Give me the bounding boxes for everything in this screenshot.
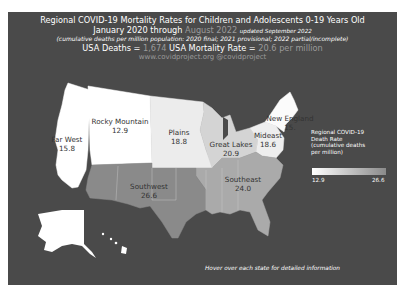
region-name: Great Lakes — [210, 140, 253, 149]
legend-title-line: Death Rate — [311, 136, 365, 143]
region-value: 18.8 — [168, 137, 189, 146]
region-name: Southeast — [225, 175, 261, 184]
region-value: 24.0 — [225, 184, 261, 193]
region-value: 15.8 — [52, 144, 83, 153]
region-southwest[interactable] — [86, 163, 206, 238]
label-mideast: Mideast 18.6 — [254, 131, 282, 149]
label-southwest: Southwest 26.6 — [130, 182, 168, 200]
legend-title-line: Regional COVID-19 — [311, 129, 365, 136]
legend-min: 12.9 — [312, 177, 324, 183]
region-value: 18.6 — [254, 140, 282, 149]
region-value: 26.6 — [130, 191, 168, 200]
label-plains: Plains 18.8 — [168, 128, 189, 146]
region-alaska[interactable] — [38, 210, 96, 258]
legend-colorbar — [312, 168, 386, 175]
label-great-lakes: Great Lakes 20.9 — [210, 140, 253, 158]
legend-title: Regional COVID-19 Death Rate (cumulative… — [311, 129, 365, 155]
region-value: 12.9 — [92, 126, 149, 135]
region-value: 20.9 — [210, 149, 253, 158]
legend-max: 26.6 — [372, 177, 384, 183]
region-name: New England — [266, 114, 313, 123]
region-name: Far West — [52, 135, 83, 144]
legend-title-line: (cumulative deaths — [311, 142, 365, 149]
region-name: Southwest — [130, 182, 168, 191]
label-southeast: Southeast 24.0 — [225, 175, 261, 193]
region-name: Plains — [168, 128, 189, 137]
label-far-west: Far West 15.8 — [52, 135, 83, 153]
label-new-england: New England 15. — [266, 114, 313, 132]
region-name: Mideast — [254, 131, 282, 140]
region-hawaii[interactable] — [102, 233, 127, 254]
label-rocky-mountain: Rocky Mountain 12.9 — [92, 117, 149, 135]
region-value: 15. — [266, 123, 313, 132]
legend-title-line: per million) — [311, 149, 365, 156]
region-name: Rocky Mountain — [92, 117, 149, 126]
hover-hint: Hover over each state for detailed infor… — [205, 265, 340, 271]
